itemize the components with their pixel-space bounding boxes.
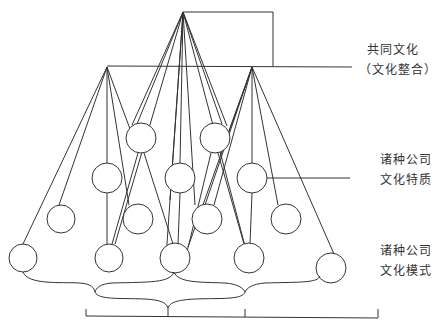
common-culture-label-line2: （文化整合）	[359, 60, 436, 80]
trait-circle	[192, 204, 222, 234]
common-culture-label-line1: 共同文化	[367, 40, 436, 60]
pattern-circle	[316, 253, 346, 283]
patterns-label-line1: 诸种公司	[380, 241, 432, 261]
common-culture-frame	[107, 12, 352, 67]
pattern-circle	[160, 243, 190, 273]
trait-circle	[165, 163, 195, 193]
company-culture-traits-label: 诸种公司 文化特质	[380, 150, 432, 190]
circle-connectors	[107, 153, 350, 252]
pattern-circle	[9, 244, 37, 272]
trait-circle	[200, 123, 230, 153]
bottom-bracket	[86, 308, 378, 318]
pattern-circle	[234, 243, 264, 273]
company-culture-patterns-label: 诸种公司 文化模式	[380, 241, 432, 281]
patterns-label-line2: 文化模式	[380, 261, 432, 281]
traits-label-line1: 诸种公司	[380, 150, 432, 170]
trait-circle	[126, 123, 156, 153]
traits-label-line2: 文化特质	[380, 170, 432, 190]
grouping-braces	[23, 272, 320, 308]
left-apex-lines	[23, 67, 130, 244]
trait-circle	[92, 163, 122, 193]
pattern-circle	[95, 244, 123, 272]
common-culture-pointer-line	[107, 66, 352, 67]
trait-circle	[47, 205, 75, 233]
trait-circle	[271, 204, 301, 234]
trait-circle	[123, 204, 153, 234]
common-culture-label: 共同文化 （文化整合）	[367, 40, 436, 80]
trait-circle	[237, 163, 267, 193]
